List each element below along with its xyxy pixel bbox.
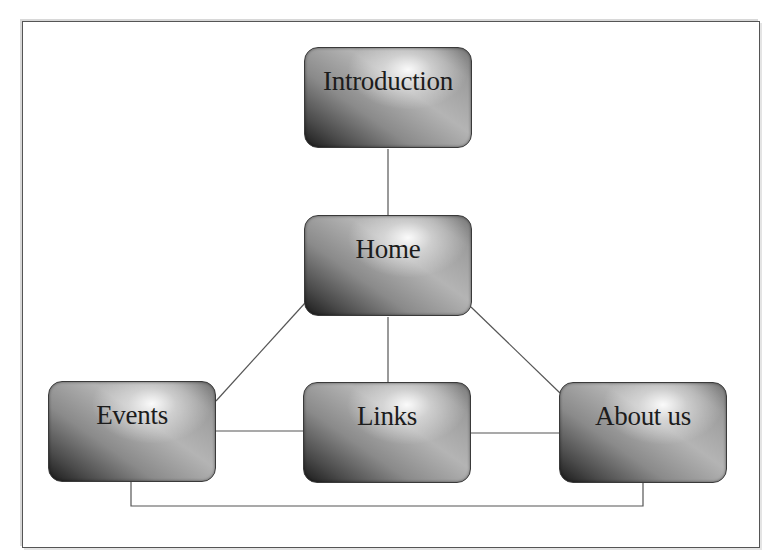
node-events[interactable]: Events [48,381,216,482]
edge-home-events [216,303,305,401]
node-label: Events [49,400,215,431]
node-home[interactable]: Home [304,215,472,316]
edge-events-about-us [131,482,643,506]
node-label: Home [305,234,471,265]
node-label: Links [304,401,470,432]
node-label: Introduction [305,66,471,97]
node-introduction[interactable]: Introduction [304,47,472,148]
node-links[interactable]: Links [303,382,471,483]
node-label: About us [560,401,726,432]
edge-home-about-us [471,307,560,393]
node-about-us[interactable]: About us [559,382,727,483]
